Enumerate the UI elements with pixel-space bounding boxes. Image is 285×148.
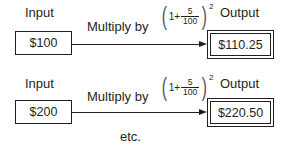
- fraction-denominator: 100: [181, 87, 199, 97]
- output-box: $220.50: [207, 98, 274, 127]
- operation-label: Multiply by: [87, 20, 148, 34]
- arrow-right-icon: [199, 109, 207, 115]
- right-paren: ): [202, 74, 207, 100]
- right-paren: ): [202, 3, 207, 29]
- output-box: $110.25: [207, 30, 274, 59]
- arrow-right-icon: [199, 41, 207, 47]
- output-label: Output: [220, 6, 259, 20]
- fraction-numerator: 5: [186, 7, 195, 16]
- input-box: $200: [15, 100, 72, 124]
- formula-one: 1+: [169, 11, 180, 22]
- input-box: $100: [15, 31, 72, 55]
- arrow-line: [72, 44, 200, 45]
- fraction: 5 100: [181, 78, 199, 97]
- exponent: 2: [209, 2, 213, 11]
- etc-label: etc.: [120, 130, 141, 144]
- fraction: 5 100: [181, 7, 199, 26]
- output-value: $110.25: [210, 33, 271, 56]
- output-value: $220.50: [210, 101, 271, 124]
- fraction-numerator: 5: [186, 78, 195, 87]
- input-label: Input: [25, 77, 54, 91]
- fraction-denominator: 100: [181, 16, 199, 26]
- output-label: Output: [220, 77, 259, 91]
- growth-formula: ( 1+ 5 100 ) 2: [160, 74, 213, 100]
- exponent: 2: [209, 73, 213, 82]
- operation-label: Multiply by: [87, 90, 148, 104]
- input-label: Input: [25, 6, 54, 20]
- growth-formula: ( 1+ 5 100 ) 2: [160, 3, 213, 29]
- left-paren: (: [162, 3, 167, 29]
- arrow-line: [72, 112, 200, 113]
- left-paren: (: [162, 74, 167, 100]
- formula-one: 1+: [169, 82, 180, 93]
